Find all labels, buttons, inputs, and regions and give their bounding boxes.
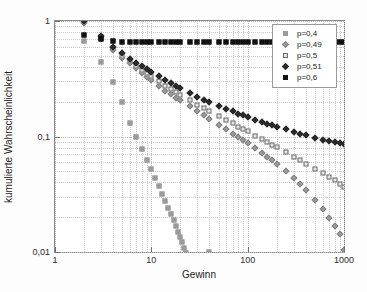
data-point [282,168,289,175]
data-point [331,222,338,229]
data-point [303,161,308,166]
data-point [134,40,139,45]
data-point [297,181,304,188]
data-point [224,117,229,122]
data-point [195,40,200,45]
data-point [313,167,318,172]
legend: p=0,4p=0,49p=0,5p=0,51p=0,6 [272,24,337,88]
x-tick-label: 1 [52,255,57,265]
data-point [230,40,235,45]
y-tick-label: 0,1 [20,132,50,142]
data-point [245,40,250,45]
data-point [139,146,144,151]
data-point [216,40,221,45]
data-point [186,89,193,96]
diamond-marker-icon [278,42,292,47]
data-point [149,167,154,172]
data-point [134,134,139,139]
data-point [252,145,259,152]
x-tick-mark [151,247,152,252]
data-point [153,176,158,181]
data-point [342,185,345,190]
data-point [302,186,309,193]
x-axis-title: Gewinn [182,269,216,280]
data-point [110,80,115,85]
diamond-marker-icon [278,64,292,69]
x-tick-mark [344,247,345,252]
data-point [298,158,303,163]
data-point [201,40,206,45]
legend-label: p=0,51 [297,62,322,71]
y-tick-mark [55,21,60,22]
y-tick-mark [55,137,60,138]
data-point [163,198,168,203]
data-point [171,218,176,223]
data-point [342,40,345,45]
data-point [223,126,230,133]
legend-item[interactable]: p=0,5 [273,50,336,61]
data-point [244,113,251,120]
legend-item[interactable]: p=0,49 [273,39,336,50]
data-point [166,205,171,210]
data-point [245,129,250,134]
data-point [144,157,149,162]
data-point [201,106,206,111]
data-point [120,100,125,105]
data-point [326,214,333,221]
data-point [290,175,297,182]
legend-item[interactable]: p=0,6 [273,72,336,83]
data-point [230,121,235,126]
gridline-horizontal [55,252,344,253]
data-point [259,137,264,142]
data-point [177,97,184,104]
data-point [302,131,309,138]
y-axis-title: kumulierte Wahrscheinlichkeit [3,71,14,203]
legend-item[interactable]: p=0,4 [273,28,336,39]
data-point [327,174,332,179]
data-point [207,250,212,253]
data-point [186,103,193,110]
data-point [149,40,154,45]
x-tick-label: 1000 [334,255,354,265]
figure: kumulierte Wahrscheinlichkeit Gewinn p=0… [0,0,367,292]
data-point [168,212,173,217]
data-point [253,40,258,45]
data-point [284,150,289,155]
data-point [340,141,344,148]
data-point [311,134,318,141]
data-point [274,145,279,150]
legend-item[interactable]: p=0,51 [273,61,336,72]
data-point [98,59,103,64]
legend-label: p=0,5 [297,51,317,60]
data-point [223,105,230,112]
x-tick-label: 10 [146,255,156,265]
data-point [98,37,103,42]
legend-label: p=0,4 [297,29,317,38]
data-point [320,171,325,176]
data-point [163,83,168,88]
data-point [160,191,165,196]
data-point [207,40,212,45]
legend-label: p=0,6 [297,73,317,82]
data-point [120,39,125,44]
y-tick-mark [55,252,60,253]
data-point [81,33,86,38]
square-marker-icon [278,53,292,58]
data-point [81,39,86,44]
y-tick-label: 1 [20,16,50,26]
data-point [178,40,183,45]
data-point [156,184,161,189]
data-point [206,98,213,105]
square-marker-icon [278,75,292,80]
data-point [127,120,132,125]
data-point [291,154,296,159]
data-point [173,224,178,229]
data-point [195,102,200,107]
data-point [207,109,212,114]
data-point [319,206,326,213]
data-point [127,39,132,44]
data-point [184,250,189,252]
data-point [282,126,289,133]
data-point [215,121,222,128]
data-point [244,139,251,146]
